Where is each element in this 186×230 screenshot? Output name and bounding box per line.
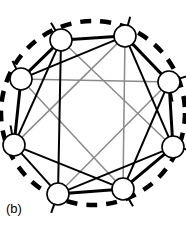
graph-node <box>3 134 25 156</box>
graph-node <box>112 178 134 200</box>
graph-edge <box>30 79 159 82</box>
graph-edge <box>67 190 113 194</box>
graph-node <box>50 29 72 51</box>
black-edge-layer <box>15 37 172 194</box>
graph-edge <box>21 43 118 139</box>
graph-edge <box>23 149 114 186</box>
graph-node <box>10 68 32 90</box>
gray-edge-layer <box>21 43 166 188</box>
graph-node <box>158 71 180 93</box>
graph-node <box>162 136 184 158</box>
graph-edge <box>65 89 163 188</box>
graph-edge <box>70 37 115 40</box>
graph-edge <box>68 47 166 141</box>
graph-edge <box>123 45 125 179</box>
graph-node <box>47 183 69 205</box>
graph-figure: (b) <box>0 0 186 230</box>
graph-edge <box>28 47 54 73</box>
graph-node <box>114 25 136 47</box>
graph-canvas <box>0 0 186 230</box>
panel-label: (b) <box>6 202 22 215</box>
graph-edge <box>15 88 20 135</box>
